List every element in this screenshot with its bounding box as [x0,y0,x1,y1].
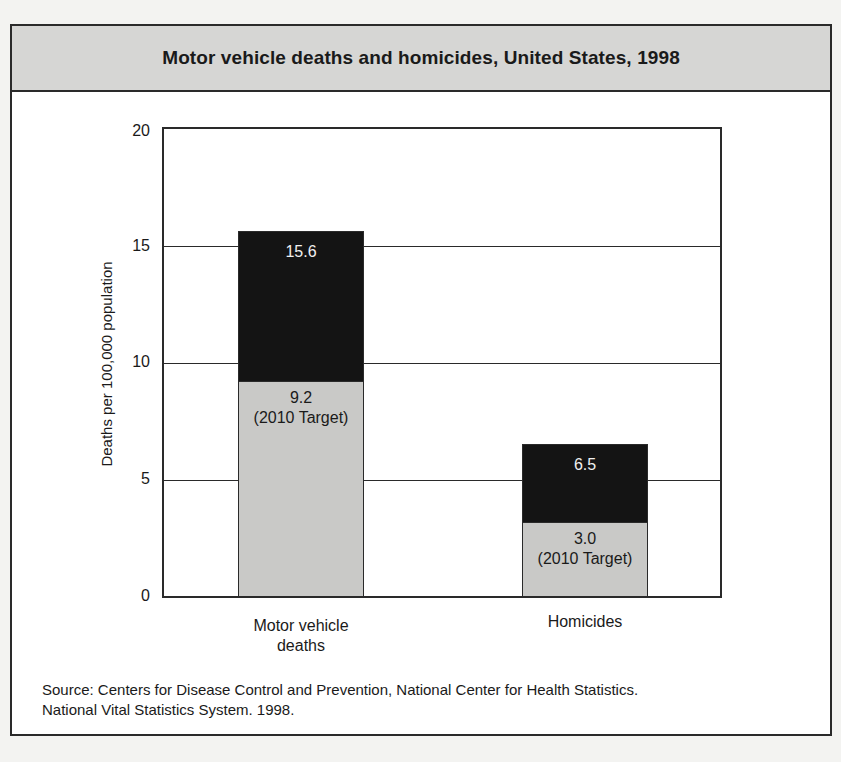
chart-title: Motor vehicle deaths and homicides, Unit… [162,47,680,69]
x-label-motor-vehicle: Motor vehicle deaths [201,616,401,656]
source-line1: Source: Centers for Disease Control and … [42,680,638,700]
title-band: Motor vehicle deaths and homicides, Unit… [12,26,830,92]
bar-segment-actual: 6.5 [522,444,648,523]
bar-value-label: 6.5 [523,455,647,474]
bar-motor-vehicle: 15.6 9.2 (2010 Target) [238,231,364,597]
y-tick-0: 0 [120,587,150,605]
target-note: (2010 Target) [239,408,363,427]
target-value-label: 3.0 [523,529,647,548]
bar-homicides: 6.5 3.0 (2010 Target) [522,444,648,597]
x-label-homicides: Homicides [485,612,685,632]
bar-value-label: 15.6 [239,242,363,261]
source-line2: National Vital Statistics System. 1998. [42,700,638,720]
target-note: (2010 Target) [523,549,647,568]
y-axis-label: Deaths per 100,000 population [98,261,115,466]
y-tick-10: 10 [120,353,150,371]
source-note: Source: Centers for Disease Control and … [42,680,638,720]
x-label-line1: Motor vehicle [201,616,401,636]
target-value-label: 9.2 [239,388,363,407]
y-tick-5: 5 [120,470,150,488]
y-tick-15: 15 [120,237,150,255]
bar-segment-target: 3.0 (2010 Target) [522,522,648,597]
x-label-line2: deaths [201,636,401,656]
y-tick-20: 20 [120,122,150,140]
x-label-line1: Homicides [485,612,685,632]
bar-segment-actual: 15.6 [238,231,364,382]
bar-segment-target: 9.2 (2010 Target) [238,381,364,597]
